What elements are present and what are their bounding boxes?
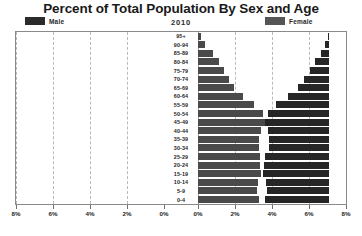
age-group-label: 60-64 (164, 92, 198, 101)
age-group-label: 80-84 (164, 58, 198, 67)
table-row: 35-39 (16, 135, 346, 144)
x-axis-tick (198, 205, 199, 209)
table-row: 25-29 (16, 152, 346, 161)
chart-year-label: 2010 (0, 18, 362, 27)
bar-female (198, 127, 261, 134)
bar-female (198, 162, 260, 169)
x-axis-tick (235, 205, 236, 209)
table-row: 5-9 (16, 187, 346, 196)
x-axis: 8%6%4%2%0%0%2%4%6%8% (15, 205, 347, 231)
bar-male (310, 67, 329, 74)
bar-male (266, 179, 329, 186)
age-group-label: 30-34 (164, 144, 198, 153)
table-row: 45-49 (16, 118, 346, 127)
bar-male (265, 119, 329, 126)
bar-male (325, 41, 329, 48)
age-group-label: 90-94 (164, 41, 198, 50)
age-group-label: 25-29 (164, 153, 198, 162)
age-group-label: 95+ (164, 32, 198, 41)
bar-rows: 95+90-9485-8980-8475-7970-7465-6960-6455… (16, 32, 346, 204)
bar-female (198, 153, 260, 160)
bar-female (198, 41, 205, 48)
bar-male (298, 84, 329, 91)
bar-female (198, 101, 254, 108)
table-row: 75-79 (16, 66, 346, 75)
bar-male (265, 153, 329, 160)
bar-female (198, 93, 243, 100)
table-row: 90-94 (16, 41, 346, 50)
table-row: 80-84 (16, 58, 346, 67)
bar-female (198, 170, 261, 177)
x-axis-tick-label: 4% (86, 210, 95, 217)
bar-male (268, 127, 329, 134)
bar-male (264, 162, 329, 169)
x-axis-tick (16, 205, 17, 209)
age-group-label: 75-79 (164, 67, 198, 76)
age-group-label: 45-49 (164, 118, 198, 127)
table-row: 10-14 (16, 178, 346, 187)
bar-female (198, 136, 259, 143)
bar-male (265, 196, 329, 203)
x-axis-tick (272, 205, 273, 209)
bar-male (288, 93, 329, 100)
x-axis-tick (309, 205, 310, 209)
bar-female (198, 110, 263, 117)
population-pyramid-chart: Percent of Total Population By Sex and A… (0, 0, 362, 236)
bar-female (198, 67, 224, 74)
bar-female (198, 187, 257, 194)
table-row: 15-19 (16, 170, 346, 179)
bar-female (198, 33, 201, 40)
bar-female (198, 58, 219, 65)
x-axis-tick-label: 2% (231, 210, 240, 217)
age-group-label: 85-89 (164, 49, 198, 58)
table-row: 70-74 (16, 75, 346, 84)
x-axis-tick (164, 205, 165, 209)
bar-male (269, 144, 329, 151)
plot-area: 95+90-9485-8980-8475-7970-7465-6960-6455… (15, 31, 347, 205)
age-group-label: 0-4 (164, 196, 198, 205)
bar-male (268, 110, 329, 117)
age-group-label: 40-44 (164, 127, 198, 136)
bar-male (269, 136, 329, 143)
bar-female (198, 76, 229, 83)
table-row: 60-64 (16, 92, 346, 101)
table-row: 50-54 (16, 109, 346, 118)
bar-female (198, 84, 234, 91)
gridline (346, 32, 347, 204)
table-row: 0-4 (16, 195, 346, 204)
page-title: Percent of Total Population By Sex and A… (0, 1, 362, 16)
table-row: 30-34 (16, 144, 346, 153)
x-axis-tick (127, 205, 128, 209)
table-row: 85-89 (16, 49, 346, 58)
bar-female (198, 196, 259, 203)
age-group-label: 70-74 (164, 75, 198, 84)
bar-female (198, 50, 213, 57)
x-axis-tick-label: 0% (194, 210, 203, 217)
age-group-label: 55-59 (164, 101, 198, 110)
x-axis-tick-label: 6% (305, 210, 314, 217)
table-row: 55-59 (16, 101, 346, 110)
bar-male (304, 76, 329, 83)
x-axis-tick (90, 205, 91, 209)
table-row: 40-44 (16, 127, 346, 136)
bar-female (198, 179, 258, 186)
age-group-label: 35-39 (164, 135, 198, 144)
x-axis-tick-label: 0% (160, 210, 169, 217)
x-axis-tick-label: 8% (342, 210, 351, 217)
bar-male (321, 50, 329, 57)
age-group-label: 15-19 (164, 170, 198, 179)
age-group-label: 50-54 (164, 110, 198, 119)
bar-male (315, 58, 329, 65)
table-row: 20-24 (16, 161, 346, 170)
bar-male (328, 33, 329, 40)
table-row: 95+ (16, 32, 346, 41)
x-axis-tick (53, 205, 54, 209)
bar-female (198, 144, 259, 151)
bar-male (263, 170, 329, 177)
table-row: 65-69 (16, 84, 346, 93)
x-axis-tick-label: 8% (12, 210, 21, 217)
x-axis-tick-label: 4% (268, 210, 277, 217)
bar-female (198, 119, 265, 126)
age-group-label: 65-69 (164, 84, 198, 93)
age-group-label: 10-14 (164, 178, 198, 187)
